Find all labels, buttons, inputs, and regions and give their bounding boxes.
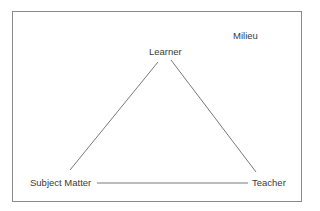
subject-matter-node: Subject Matter: [30, 178, 91, 188]
teacher-node: Teacher: [252, 178, 286, 188]
edge-learner-subject-matter: [70, 62, 158, 170]
edge-learner-teacher: [171, 60, 256, 172]
milieu-label: Milieu: [233, 31, 258, 41]
learner-node: Learner: [149, 47, 182, 57]
